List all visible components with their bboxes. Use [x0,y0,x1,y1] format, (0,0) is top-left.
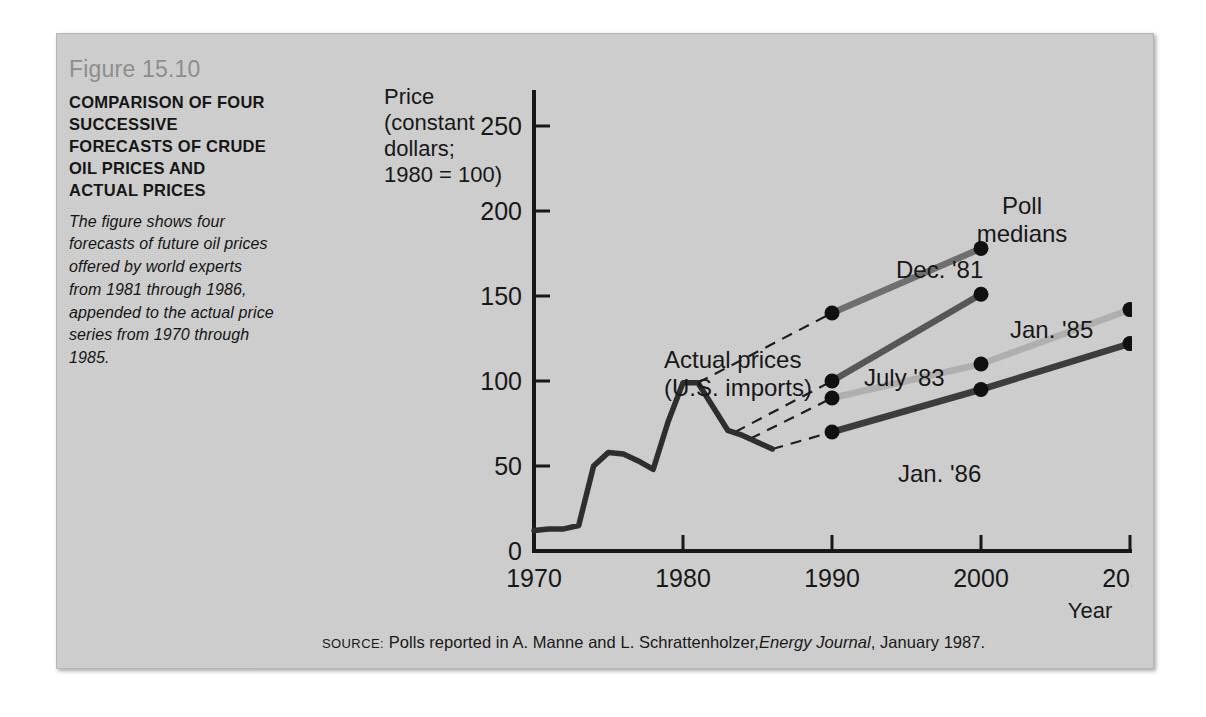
figure-root: Figure 15.10 COMPARISON OF FOUR SUCCESSI… [0,0,1206,717]
poll-medians-line-0: Poll [1002,192,1042,219]
y-tick-label-250: 250 [480,112,522,140]
y-axis-caption-line-0: Price [384,84,434,109]
y-tick-label-0: 0 [508,537,522,565]
caption-column: Figure 15.10 COMPARISON OF FOUR SUCCESSI… [69,56,274,370]
chart-area: 050100150200250 19701980199020002010 Pri… [272,42,1132,622]
series-label-july83: July '83 [864,364,945,391]
figure-title: COMPARISON OF FOUR SUCCESSIVE FORECASTS … [69,92,274,202]
actual-prices-series [534,383,772,531]
series-label-jan85: Jan. '85 [1010,316,1093,343]
annotation-poll-medians: Poll medians [977,192,1068,247]
poll-medians-line-1: medians [977,220,1068,247]
y-axis-caption-line-3: 1980 = 100) [384,162,502,187]
x-axis-ticks: 19701980199020002010 [506,535,1132,592]
source-text-before: Polls reported in A. Manne and L. Schrat… [389,633,759,651]
forecast-point [825,425,840,440]
y-axis-caption-line-2: dollars; [384,136,455,161]
forecast-point [974,357,989,372]
x-tick-label-1970: 1970 [506,564,562,592]
forecast-point [825,391,840,406]
connector-jan-85 [750,398,832,439]
figure-description: The figure shows four forecasts of futur… [69,211,274,370]
y-axis-caption-line-1: (constant [384,110,475,135]
forecast-point [974,382,989,397]
forecast-point [974,287,989,302]
x-tick-label-1980: 1980 [655,564,711,592]
series-label-dec81: Dec. '81 [896,256,983,283]
y-tick-label-150: 150 [480,282,522,310]
actual-prices-line-1: (U.S. imports) [664,374,812,401]
source-label: SOURCE: [322,636,384,651]
x-tick-label-1990: 1990 [804,564,860,592]
series-label-jan86: Jan. '86 [898,460,981,487]
forecast-point [825,306,840,321]
y-tick-label-100: 100 [480,367,522,395]
y-tick-label-50: 50 [494,452,522,480]
x-tick-label-2000: 2000 [953,564,1009,592]
source-text-after: , January 1987. [871,633,986,651]
figure-number: Figure 15.10 [69,56,274,83]
y-tick-label-200: 200 [480,197,522,225]
source-journal: Energy Journal [759,633,871,651]
actual-prices-line-0: Actual prices [664,346,801,373]
oil-price-forecast-chart: 050100150200250 19701980199020002010 Pri… [272,42,1132,622]
figure-panel: Figure 15.10 COMPARISON OF FOUR SUCCESSI… [56,33,1154,669]
x-axis-caption: Year [1068,598,1112,622]
x-tick-label-2010: 2010 [1102,564,1132,592]
forecast-point [825,374,840,389]
source-line: SOURCE: Polls reported in A. Manne and L… [322,633,1142,652]
connector-jan-86 [772,432,832,449]
annotation-actual-prices: Actual prices (U.S. imports) [664,346,812,401]
